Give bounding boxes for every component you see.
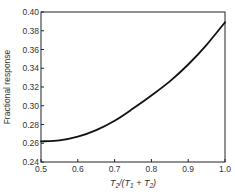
- data-curve: [41, 22, 225, 141]
- y-tick-label: 0.26: [22, 138, 39, 148]
- x-tick-label: 0.7: [109, 164, 121, 174]
- y-tick-label: 0.38: [22, 26, 39, 36]
- y-tick-label: 0.36: [22, 45, 39, 55]
- x-tick-label: 0.5: [35, 164, 47, 174]
- chart: 0.240.260.280.300.320.340.360.380.40 0.5…: [0, 0, 235, 195]
- y-tick-label: 0.28: [22, 120, 39, 130]
- x-tick-label: 0.6: [72, 164, 84, 174]
- x-tick-label: 0.8: [145, 164, 157, 174]
- y-tick-label: 0.34: [22, 63, 39, 73]
- y-tick-label: 0.32: [22, 82, 39, 92]
- x-axis-label: T2/(T1 + T2): [110, 178, 156, 189]
- chart-svg: 0.240.260.280.300.320.340.360.380.40 0.5…: [0, 0, 235, 195]
- y-tick-label: 0.40: [22, 7, 39, 17]
- y-tick-label: 0.30: [22, 101, 39, 111]
- x-tick-label: 0.9: [182, 164, 194, 174]
- x-tick-label: 1.0: [219, 164, 231, 174]
- y-axis-label: Fractional response: [2, 49, 12, 124]
- x-axis-ticks: 0.50.60.70.80.91.0: [35, 159, 231, 174]
